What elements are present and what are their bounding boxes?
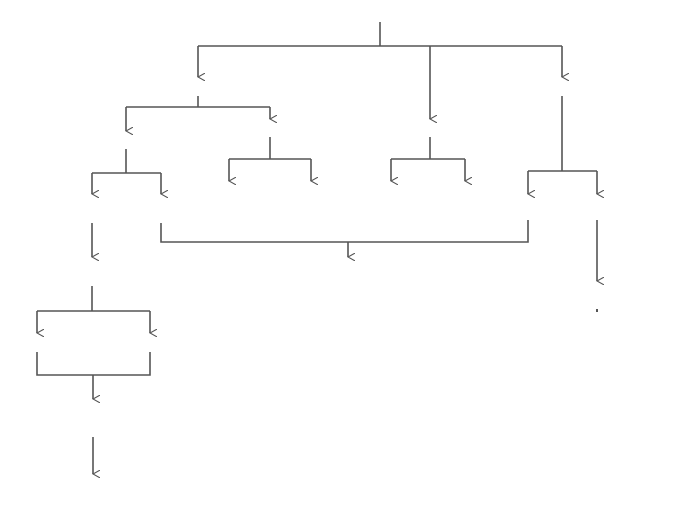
connector-lines [0, 0, 686, 509]
